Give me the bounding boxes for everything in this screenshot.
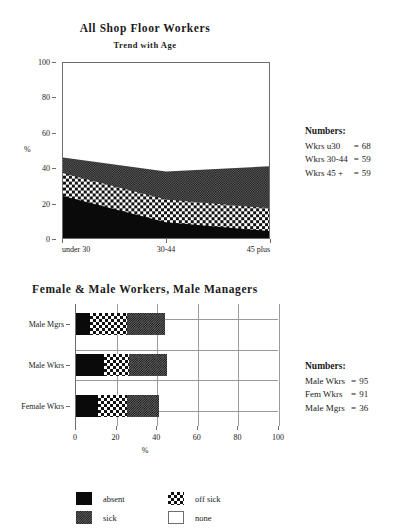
numbers-row-label: Fem Wkrs (305, 388, 351, 402)
numbers-row: Wkrs u30=68 (305, 140, 371, 154)
area-chart-x-tick: 45 plus (247, 245, 270, 254)
area-chart-x-axis: under 3030-4445 plus (0, 245, 290, 261)
area-chart-x-tick: under 30 (62, 245, 90, 254)
legend-swatch-absent (76, 492, 92, 505)
area-chart-y-tick: 80 (42, 93, 50, 102)
area-chart-y-tickmark (52, 97, 56, 98)
legend-label: none (195, 513, 212, 523)
numbers-table: Wkrs u30=68Wkrs 30-44=59Wkrs 45 +=59 (305, 140, 371, 181)
numbers-row-value: 68 (362, 140, 371, 154)
bar-chart-y-tickmark (66, 365, 70, 366)
numbers-row-value: 91 (359, 388, 368, 402)
area-chart-y-tick: 40 (42, 164, 50, 173)
bar-chart-x-tick: 60 (193, 433, 201, 442)
bar-chart-plot (75, 304, 278, 426)
bar-chart-x-tick: 0 (73, 433, 77, 442)
area-chart-x-tickmark (270, 239, 271, 243)
legend-label: off sick (195, 494, 221, 504)
bar-segment-sick (127, 313, 166, 335)
bar-chart-x-tick: 100 (272, 433, 284, 442)
numbers-row: Wkrs 30-44=59 (305, 153, 371, 167)
numbers-heading: Numbers: (305, 125, 371, 139)
bar-chart-x-tickmark (156, 426, 157, 430)
legend-item-absent: absent (76, 492, 168, 505)
bar-chart-y-axis: Male MgrsMale WkrsFemale Wkrs (0, 304, 70, 426)
legend-item-none: none (168, 511, 212, 524)
bar-chart-gridline (198, 304, 199, 426)
area-chart-title: All Shop Floor Workers (0, 22, 290, 34)
area-chart-y-tickmark (52, 133, 56, 134)
bar-chart-y-tickmark (66, 324, 70, 325)
area-chart-y-tickmark (52, 204, 56, 205)
area-chart-subtitle: Trend with Age (0, 40, 290, 50)
numbers-block-staff: Numbers: Male Wkrs=95Fem Wkrs=91Male Mgr… (305, 360, 368, 415)
bar-chart-x-tickmark (75, 426, 76, 430)
legend-swatch-none (168, 511, 184, 524)
area-chart-x-tick: 30-44 (157, 245, 176, 254)
numbers-row: Male Mgrs=36 (305, 402, 368, 416)
bar-chart-panel: Female & Male Workers, Male Managers Mal… (0, 283, 290, 483)
numbers-row-label: Male Mgrs (305, 402, 351, 416)
numbers-row-equals: = (354, 140, 362, 154)
bar-chart-x-axis-label: % (0, 446, 290, 455)
bar-chart-category-label: Male Wkrs (28, 361, 64, 370)
bar-segment-off-sick (98, 395, 126, 417)
bar-chart-x-tick: 20 (112, 433, 120, 442)
bar-chart-x-tickmark (278, 426, 279, 430)
numbers-block-workers: Numbers: Wkrs u30=68Wkrs 30-44=59Wkrs 45… (305, 125, 371, 180)
bar-chart-category-label: Female Wkrs (21, 401, 64, 410)
legend-label: absent (103, 494, 125, 504)
numbers-row: Male Wkrs=95 (305, 375, 368, 389)
bar-chart-x-tick: 80 (233, 433, 241, 442)
bar-chart-x-tickmark (237, 426, 238, 430)
numbers-row-value: 59 (362, 167, 371, 181)
bar-chart-gridline (76, 380, 278, 381)
numbers-row-equals: = (354, 167, 362, 181)
numbers-row-equals: = (354, 153, 362, 167)
bar-segment-absent (76, 313, 90, 335)
bar-chart-x-tick: 40 (152, 433, 160, 442)
bar-chart-x-tickmark (197, 426, 198, 430)
numbers-heading: Numbers: (305, 360, 368, 374)
numbers-row: Wkrs 45 +=59 (305, 167, 371, 181)
numbers-row: Fem Wkrs=91 (305, 388, 368, 402)
legend-swatch-offsick (168, 492, 184, 505)
area-chart-y-tickmark (52, 62, 56, 63)
numbers-row-value: 36 (359, 402, 368, 416)
numbers-row-label: Male Wkrs (305, 375, 351, 389)
area-chart-y-tick: 60 (42, 128, 50, 137)
bar-chart-y-tickmark (66, 406, 70, 407)
chart-legend: absentoff sicksicknone (76, 489, 306, 527)
area-chart-y-tickmark (52, 239, 56, 240)
area-chart-plot (62, 62, 270, 239)
legend-item-offsick: off sick (168, 492, 221, 505)
numbers-table: Male Wkrs=95Fem Wkrs=91Male Mgrs=36 (305, 375, 368, 416)
bar-chart-bar (76, 354, 167, 376)
bar-chart-category-label: Male Mgrs (29, 320, 64, 329)
area-chart-y-tickmark (52, 168, 56, 169)
area-chart-panel: All Shop Floor Workers Trend with Age 02… (0, 0, 290, 275)
bar-segment-sick (127, 395, 159, 417)
numbers-row-label: Wkrs u30 (305, 140, 354, 154)
bar-chart-gridline (76, 350, 278, 351)
bar-segment-sick (129, 354, 168, 376)
bar-chart-gridline (279, 304, 280, 426)
legend-row: sicknone (76, 508, 306, 527)
numbers-row-equals: = (351, 388, 359, 402)
area-chart-x-tickmark (62, 239, 63, 243)
legend-swatch-sick (76, 511, 92, 524)
bar-segment-off-sick (90, 313, 127, 335)
area-chart-y-tick: 20 (42, 199, 50, 208)
area-chart-x-tickmark (166, 239, 167, 243)
bar-chart-x-tickmark (116, 426, 117, 430)
numbers-row-value: 59 (362, 153, 371, 167)
numbers-row-equals: = (351, 402, 359, 416)
bar-chart-gridline (238, 304, 239, 426)
legend-label: sick (103, 513, 117, 523)
area-chart-svg (63, 63, 269, 238)
area-chart-series (63, 158, 269, 239)
bar-segment-off-sick (104, 354, 128, 376)
area-chart-y-tick: 0 (46, 235, 50, 244)
numbers-row-label: Wkrs 30-44 (305, 153, 354, 167)
bar-chart-x-axis: 020406080100 (0, 433, 290, 447)
